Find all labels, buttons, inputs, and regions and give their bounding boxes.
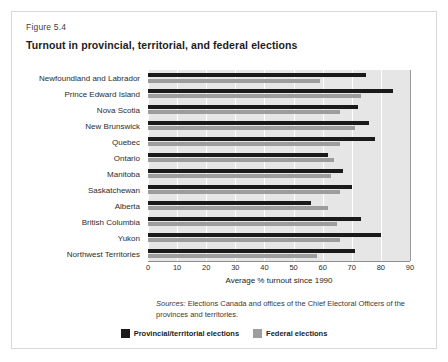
- bar-provincial: [148, 73, 366, 77]
- category-label: Ontario: [26, 150, 144, 166]
- bar-federal: [148, 94, 361, 98]
- bar-group: [148, 197, 410, 213]
- bar-group: [148, 86, 410, 102]
- category-label: Newfoundland and Labrador: [26, 70, 144, 86]
- bar-provincial: [148, 201, 311, 205]
- bar-federal: [148, 110, 340, 114]
- legend-swatch-icon: [253, 329, 262, 338]
- chart-area: Newfoundland and LabradorPrince Edward I…: [26, 64, 422, 280]
- bar-federal: [148, 222, 337, 226]
- category-label: Northwest Territories: [26, 246, 144, 262]
- category-label: Nova Scotia: [26, 102, 144, 118]
- bar-provincial: [148, 249, 355, 253]
- bar-group: [148, 245, 410, 261]
- bar-provincial: [148, 89, 393, 93]
- bar-provincial: [148, 137, 375, 141]
- legend-swatch-icon: [121, 329, 130, 338]
- x-tick-label: 30: [231, 263, 239, 272]
- x-axis-title: Average % turnout since 1990: [148, 276, 410, 285]
- legend-item-provincial: Provincial/territorial elections: [121, 329, 239, 338]
- category-label: British Columbia: [26, 214, 144, 230]
- bar-provincial: [148, 153, 328, 157]
- bar-provincial: [148, 121, 369, 125]
- x-tick-label: 10: [173, 263, 181, 272]
- figure-panel: Figure 5.4 Turnout in provincial, territ…: [11, 11, 437, 349]
- bar-group: [148, 213, 410, 229]
- chart-legend: Provincial/territorial electionsFederal …: [12, 329, 436, 338]
- category-label: Yukon: [26, 230, 144, 246]
- bar-group: [148, 70, 410, 86]
- x-tick-label: 90: [406, 263, 414, 272]
- x-tick-label: 80: [377, 263, 385, 272]
- category-label: Saskatchewan: [26, 182, 144, 198]
- gridline: [410, 70, 411, 261]
- figure-number: Figure 5.4: [26, 22, 66, 32]
- bar-series-container: [148, 70, 410, 261]
- bar-group: [148, 229, 410, 245]
- category-label: New Brunswick: [26, 118, 144, 134]
- category-label: Prince Edward Island: [26, 86, 144, 102]
- category-axis: Newfoundland and LabradorPrince Edward I…: [26, 70, 144, 262]
- source-label: Sources:: [156, 299, 186, 308]
- category-label: Quebec: [26, 134, 144, 150]
- bar-provincial: [148, 105, 358, 109]
- bar-federal: [148, 190, 340, 194]
- legend-label: Provincial/territorial elections: [134, 329, 239, 338]
- x-tick-label: 70: [348, 263, 356, 272]
- bar-federal: [148, 238, 340, 242]
- plot-area: [148, 70, 410, 262]
- x-tick-label: 50: [289, 263, 297, 272]
- bar-provincial: [148, 185, 352, 189]
- bar-group: [148, 118, 410, 134]
- legend-label: Federal elections: [266, 329, 327, 338]
- x-tick-label: 60: [318, 263, 326, 272]
- x-tick-label: 40: [260, 263, 268, 272]
- source-text: Elections Canada and offices of the Chie…: [156, 299, 405, 319]
- value-axis: 0102030405060708090: [148, 263, 410, 277]
- bar-group: [148, 166, 410, 182]
- bar-group: [148, 102, 410, 118]
- legend-item-federal: Federal elections: [253, 329, 327, 338]
- bar-federal: [148, 206, 328, 210]
- category-label: Manitoba: [26, 166, 144, 182]
- bar-federal: [148, 174, 331, 178]
- bar-federal: [148, 254, 317, 258]
- category-label: Alberta: [26, 198, 144, 214]
- figure-title: Turnout in provincial, territorial, and …: [26, 39, 298, 51]
- bar-federal: [148, 142, 340, 146]
- x-tick-label: 20: [202, 263, 210, 272]
- bar-provincial: [148, 233, 381, 237]
- bar-provincial: [148, 217, 361, 221]
- x-tick-label: 0: [146, 263, 150, 272]
- bar-federal: [148, 79, 320, 83]
- bar-provincial: [148, 169, 343, 173]
- bar-federal: [148, 158, 334, 162]
- bar-group: [148, 181, 410, 197]
- bar-group: [148, 150, 410, 166]
- bar-group: [148, 134, 410, 150]
- bar-federal: [148, 126, 355, 130]
- source-note: Sources: Elections Canada and offices of…: [156, 299, 408, 321]
